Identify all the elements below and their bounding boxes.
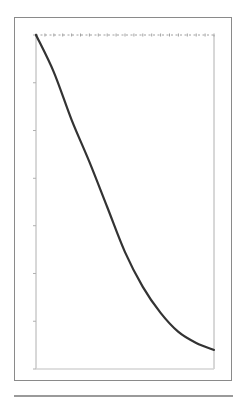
reference-line: [36, 34, 214, 37]
chart-axes: [33, 35, 214, 369]
data-curve: [36, 35, 214, 350]
line-chart: [0, 0, 238, 401]
